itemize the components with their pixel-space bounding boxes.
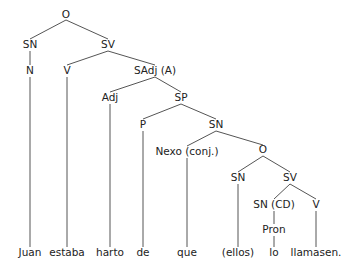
sentence-word: estaba: [49, 246, 85, 258]
tree-edge: [108, 51, 155, 65]
tree-edge: [263, 156, 290, 172]
sentence-word: harto: [96, 246, 124, 258]
tree-edge: [155, 77, 181, 92]
tree-edge: [67, 51, 108, 65]
tree-node-sn3: SN: [231, 171, 246, 183]
tree-node-o2: O: [259, 143, 267, 155]
tree-edge: [181, 104, 216, 119]
sentence-word: que: [177, 246, 197, 258]
tree-node-pron: Pron: [262, 223, 285, 235]
tree-node-sadj: SAdj (A): [134, 64, 176, 76]
tree-node-sv1: SV: [101, 38, 116, 50]
tree-node-sv2: SV: [283, 171, 298, 183]
tree-edge: [238, 156, 263, 172]
tree-node-adj: Adj: [102, 91, 119, 103]
tree-edge: [110, 77, 155, 92]
syntax-tree-diagram: OSNSVNVSAdj (A)AdjSPPSNNexo (conj.)OSNSV…: [0, 0, 358, 270]
tree-edge: [187, 131, 216, 146]
tree-edges: [30, 20, 316, 247]
tree-edge: [274, 184, 290, 199]
tree-edge: [216, 131, 263, 145]
tree-node-p: P: [140, 118, 146, 130]
sentence-word: de: [136, 246, 149, 258]
sentence-word: Juan: [18, 246, 42, 258]
tree-node-sn2: SN: [209, 118, 224, 130]
tree-node-v2: V: [312, 198, 320, 210]
tree-node-sn1: SN: [23, 38, 38, 50]
tree-edge: [290, 184, 316, 199]
sentence-words: Juanestabahartodeque(ellos)lollamasen.: [18, 246, 342, 258]
tree-node-o1: O: [62, 8, 70, 20]
sentence-word: (ellos): [222, 246, 254, 258]
tree-edge: [66, 20, 108, 39]
tree-node-n: N: [26, 64, 34, 76]
tree-node-sncd: SN (CD): [253, 198, 294, 210]
tree-edge: [30, 20, 66, 39]
tree-edge: [143, 104, 181, 119]
sentence-word: llamasen.: [291, 246, 342, 258]
sentence-word: lo: [269, 246, 278, 258]
tree-node-v1: V: [63, 64, 71, 76]
tree-node-sp: SP: [175, 91, 188, 103]
tree-node-nexo: Nexo (conj.): [155, 145, 218, 157]
